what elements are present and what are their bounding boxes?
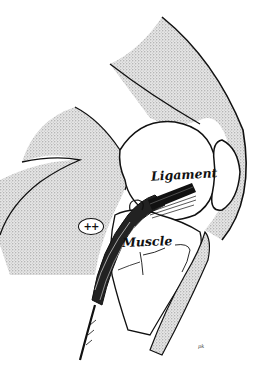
muscle-label: Muscle <box>122 235 173 249</box>
plus-marker-label: ++ <box>78 218 104 235</box>
knee-illustration: Ligament Muscle ++ pk <box>0 0 270 369</box>
anatomy-drawing <box>0 0 270 369</box>
artist-signature: pk <box>198 344 204 349</box>
